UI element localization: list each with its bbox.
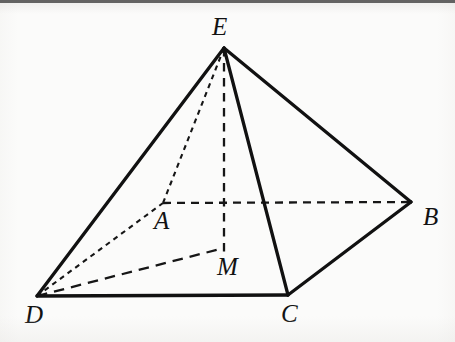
edge-D-C [37, 295, 288, 296]
edge-E-D [37, 48, 224, 296]
pyramid-figure: E A B C D M [0, 0, 455, 342]
edge-A-B [163, 202, 411, 203]
edge-E-B [224, 48, 411, 202]
vertex-label-D: D [25, 302, 43, 327]
vertex-label-E: E [212, 14, 227, 39]
pyramid-diagram-svg [0, 0, 455, 342]
vertex-label-M: M [217, 254, 238, 279]
edge-D-M [37, 248, 224, 296]
vertex-label-B: B [423, 204, 438, 229]
edge-D-A [37, 203, 163, 296]
edge-C-B [288, 202, 411, 295]
edge-E-A [163, 48, 224, 203]
vertex-label-A: A [154, 208, 169, 233]
vertex-label-C: C [281, 301, 298, 326]
